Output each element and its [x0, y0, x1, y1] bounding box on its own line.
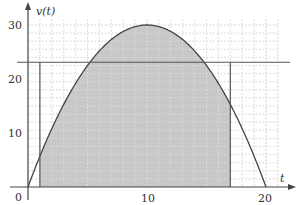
y-axis-label: v(t) [36, 5, 55, 18]
x-tick-20: 20 [258, 192, 272, 205]
y-tick-30: 30 [8, 19, 22, 32]
x-tick-10: 10 [141, 192, 155, 205]
x-axis-label: t [280, 172, 285, 185]
y-axis-arrow-icon [25, 2, 31, 10]
velocity-chart: v(t) t 0 10 20 10 20 30 [0, 0, 299, 205]
shaded-area [40, 25, 230, 187]
y-tick-10: 10 [8, 127, 22, 140]
x-axis-arrow-icon [288, 184, 296, 190]
y-tick-20: 20 [8, 73, 22, 86]
origin-label: 0 [15, 191, 22, 204]
